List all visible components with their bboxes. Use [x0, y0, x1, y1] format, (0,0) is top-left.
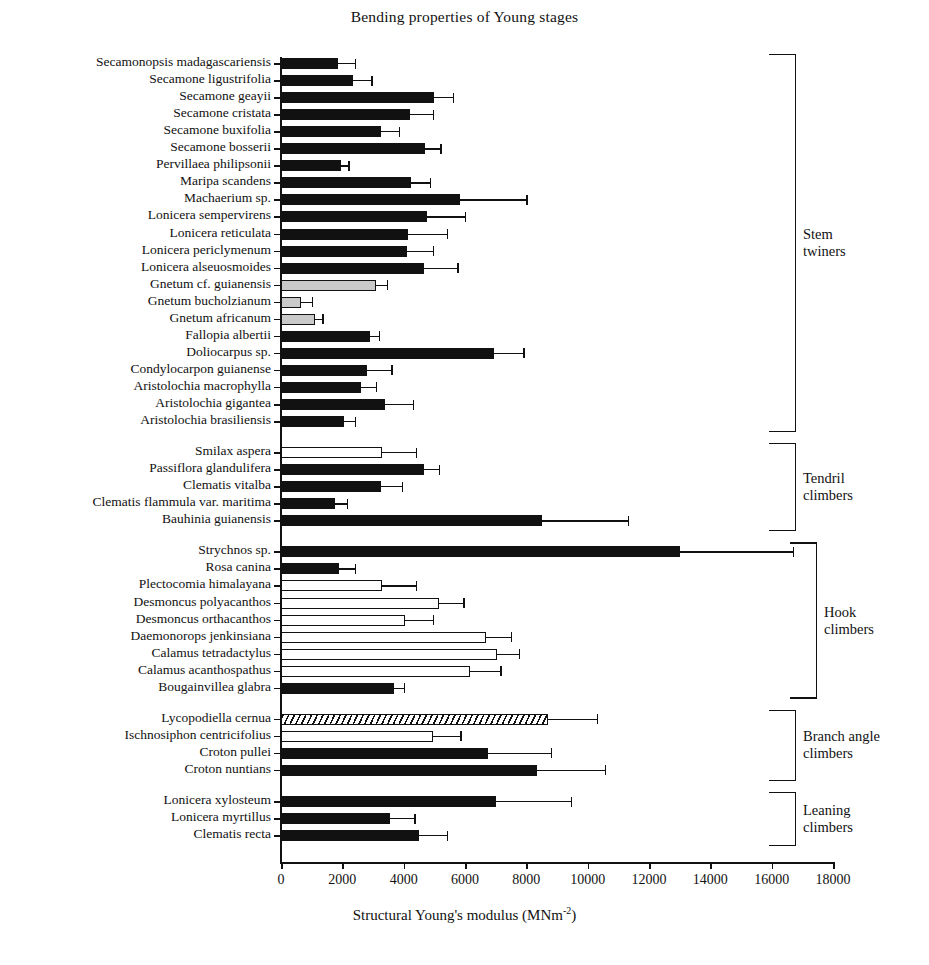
bar-row: Clematis vitalba [281, 480, 833, 494]
bar-row: Calamus tetradactylus [281, 648, 833, 662]
bar [281, 830, 419, 841]
error-bar [382, 585, 416, 586]
group-label-line: Stem [803, 226, 846, 243]
error-bar [548, 719, 597, 720]
bar-row: Gnetum africanum [281, 313, 833, 327]
error-bar-cap [500, 666, 501, 676]
x-axis-tick-label: 4000 [390, 872, 418, 888]
bar [281, 280, 376, 291]
error-bar-cap [379, 331, 380, 341]
error-bar-cap [355, 564, 356, 574]
bar [281, 382, 361, 393]
y-axis-label: Calamus acanthospathus [138, 663, 271, 677]
error-bar-cap [447, 831, 448, 841]
y-axis-label: Lycopodiella cernua [161, 711, 271, 725]
error-bar-cap [628, 516, 629, 526]
y-axis-label: Secamone geayii [179, 89, 271, 103]
bar-row: Desmoncus polyacanthos [281, 597, 833, 611]
group-label-hook-climbers: Hookclimbers [824, 604, 874, 638]
y-axis-label: Aristolochia gigantea [155, 396, 271, 410]
bar-row: Doliocarpus sp. [281, 347, 833, 361]
bar-row: Fallopia albertii [281, 330, 833, 344]
y-axis-label: Calamus tetradactylus [151, 646, 271, 660]
error-bar [411, 182, 429, 183]
bracket-bottom-arm [769, 780, 796, 781]
y-axis-tick [274, 370, 281, 372]
bar [281, 297, 301, 308]
y-axis-label: Doliocarpus sp. [186, 345, 271, 359]
bar-row: Aristolochia macrophylla [281, 381, 833, 395]
y-axis-tick [274, 753, 281, 755]
y-axis-tick [274, 199, 281, 201]
error-bar-cap [391, 365, 392, 375]
bracket-bottom-arm [769, 530, 796, 531]
bar [281, 399, 385, 410]
y-axis-label: Clematis vitalba [183, 478, 271, 492]
group-label-stem-twiners: Stemtwiners [803, 226, 846, 260]
y-axis-tick [274, 801, 281, 803]
error-bar [439, 603, 464, 604]
bar [281, 447, 382, 458]
bar [281, 796, 496, 807]
bracket-top-arm [769, 443, 796, 444]
y-axis-tick [274, 603, 281, 605]
error-bar [381, 131, 399, 132]
y-axis-label: Lonicera xylosteum [163, 793, 271, 807]
bracket-top-arm [769, 792, 796, 793]
bar [281, 229, 408, 240]
y-axis-tick [274, 736, 281, 738]
error-bar-cap [413, 400, 414, 410]
bracket-spine [795, 710, 796, 781]
x-axis-tick-label: 16000 [754, 872, 789, 888]
bar-row: Maripa scandens [281, 176, 833, 190]
error-bar [470, 671, 501, 672]
error-bar [370, 336, 379, 337]
x-axis-tick [588, 862, 590, 869]
bar [281, 126, 381, 137]
error-bar-cap [376, 382, 377, 392]
y-axis-label: Secamone ligustrifolia [149, 72, 271, 86]
bar [281, 246, 407, 257]
error-bar-cap [519, 649, 520, 659]
y-axis-tick [274, 285, 281, 287]
y-axis-label: Lonicera reticulata [169, 226, 271, 240]
error-bar-cap [433, 615, 434, 625]
bracket-spine [795, 443, 796, 531]
group-label-tendril-climbers: Tendrilclimbers [803, 470, 853, 504]
error-bar [424, 469, 439, 470]
y-axis-label: Croton pullei [199, 745, 271, 759]
bar [281, 348, 494, 359]
bar-row: Rosa canina [281, 562, 833, 576]
bracket-bottom-arm [790, 697, 817, 698]
bar [281, 160, 341, 171]
group-label-line: climbers [803, 819, 853, 836]
x-axis-tick-label: 2000 [328, 872, 356, 888]
error-bar-cap [416, 448, 417, 458]
bar-row: Lonicera sempervirens [281, 210, 833, 224]
x-axis-tick [649, 862, 651, 869]
y-axis-label: Strychnos sp. [198, 543, 271, 557]
error-bar-cap [447, 229, 448, 239]
error-bar [460, 199, 526, 200]
error-bar-cap [355, 59, 356, 69]
y-axis-tick [274, 387, 281, 389]
y-axis-label: Ischnosiphon centricifolius [124, 728, 271, 742]
error-bar-cap [430, 178, 431, 188]
y-axis-tick [274, 131, 281, 133]
y-axis-label: Plectocomia himalayana [139, 577, 271, 591]
y-axis-tick [274, 148, 281, 150]
x-axis-tick-label: 14000 [693, 872, 728, 888]
bar [281, 498, 335, 509]
error-bar-cap [457, 263, 458, 273]
bracket-top-arm [790, 542, 817, 543]
bar-row: Croton pullei [281, 747, 833, 761]
bar-row: Passiflora glandulifera [281, 463, 833, 477]
group-label-branch-angle-climbers: Branch angleclimbers [803, 728, 880, 762]
error-bar-cap [605, 765, 606, 775]
bar-row: Gnetum cf. guianensis [281, 279, 833, 293]
bar-row: Clematis flammula var. maritima [281, 497, 833, 511]
x-axis-title-end: ) [571, 907, 576, 923]
bar-row: Secamone cristata [281, 108, 833, 122]
bar [281, 263, 424, 274]
error-bar [424, 268, 458, 269]
